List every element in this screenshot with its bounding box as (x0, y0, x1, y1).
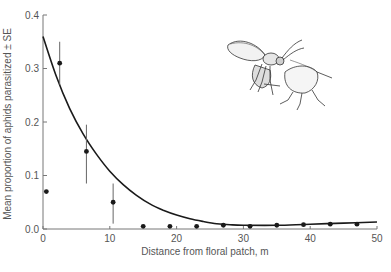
data-point (44, 189, 49, 194)
chart: 0.00.10.20.30.4 01020304050 Distance fro… (0, 0, 391, 272)
wasp-aphid-illustration (228, 40, 332, 110)
data-point (328, 222, 333, 227)
data-point (248, 224, 253, 229)
y-tick-label: 0.3 (25, 63, 39, 74)
data-point (355, 222, 360, 227)
fitted-curve (43, 36, 377, 225)
data-point (111, 200, 116, 205)
data-point (84, 149, 89, 154)
x-tick-labels: 01020304050 (40, 233, 383, 244)
y-tick-label: 0.4 (25, 10, 39, 21)
x-axis-title: Distance from floral patch, m (141, 246, 268, 257)
axes (43, 15, 377, 229)
x-tick-label: 40 (305, 233, 317, 244)
data-point (221, 223, 226, 228)
y-tick-label: 0.0 (25, 224, 39, 235)
x-tick-label: 0 (40, 233, 46, 244)
x-tick-label: 20 (171, 233, 183, 244)
data-point (301, 222, 306, 227)
y-tick-label: 0.2 (25, 117, 39, 128)
y-tick-labels: 0.00.10.20.30.4 (25, 10, 39, 235)
data-point (168, 224, 173, 229)
x-tick-label: 30 (238, 233, 250, 244)
x-tick-label: 50 (371, 233, 383, 244)
error-bars (60, 42, 113, 224)
y-axis-title: Mean proportion of aphids parasitized ± … (2, 28, 13, 220)
x-tick-label: 10 (104, 233, 116, 244)
data-point (57, 61, 62, 66)
data-point (194, 224, 199, 229)
data-point (141, 224, 146, 229)
data-point (274, 223, 279, 228)
y-tick-label: 0.1 (25, 170, 39, 181)
